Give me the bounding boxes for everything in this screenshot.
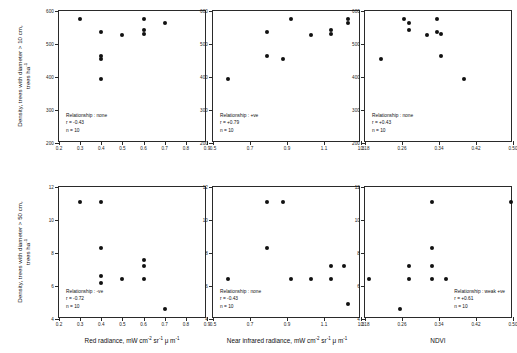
x-axis-tick-label: 0.6	[140, 322, 146, 327]
panel-top-right: 6005004003002000.180.260.340.420.50Relat…	[364, 10, 512, 142]
y-axis-tick-label: 8	[51, 251, 54, 256]
data-point	[439, 54, 443, 58]
data-point	[99, 77, 103, 81]
x-axis-tick-label: 0.18	[361, 146, 370, 151]
y-axis-tick	[209, 286, 213, 287]
x-axis-tick	[213, 317, 214, 321]
data-point	[142, 258, 146, 262]
x-axis-tick	[250, 317, 251, 321]
data-point	[289, 277, 293, 281]
annotation-sample-size: n = 10	[66, 303, 103, 310]
data-point	[99, 274, 103, 278]
y-axis-tick	[209, 253, 213, 254]
x-axis-tick	[144, 317, 145, 321]
data-point	[163, 307, 167, 311]
y-axis-tick	[361, 187, 365, 188]
x-axis-tick	[365, 317, 366, 321]
y-axis-label-bottom: Density, trees with diameter > 50 cm, tr…	[16, 186, 32, 318]
y-axis-tick-label: 4	[205, 317, 208, 322]
y-axis-tick	[361, 286, 365, 287]
x-axis-tick-label: 0.9	[284, 322, 290, 327]
y-axis-label-top-line2: trees ha-1	[24, 63, 31, 89]
annotation-correlation: r = +0.43	[372, 119, 413, 126]
data-point	[226, 277, 230, 281]
y-axis-tick-label: 4	[357, 317, 360, 322]
x-axis-tick-label: 0.50	[509, 322, 517, 327]
x-axis-tick	[476, 317, 477, 321]
y-axis-tick	[361, 11, 365, 12]
panel-bottom-middle: 12108640.50.70.91.11.3Relationship : non…	[212, 186, 360, 318]
x-axis-tick-label: 0.5	[119, 322, 125, 327]
data-point	[99, 200, 103, 204]
x-axis-tick-label: 0.42	[472, 322, 481, 327]
data-point	[289, 17, 293, 21]
panel-annotation: Relationship : +ver = +0.79n = 10	[220, 112, 258, 134]
y-axis-tick-label: 500	[46, 42, 54, 47]
y-axis-tick-label: 6	[357, 284, 360, 289]
y-axis-tick	[209, 44, 213, 45]
x-axis-tick-label: 0.8	[183, 146, 189, 151]
x-axis-tick-label: 0.34	[435, 146, 444, 151]
data-point	[462, 77, 466, 81]
y-axis-tick	[55, 110, 59, 111]
data-point	[329, 32, 333, 36]
y-axis-label-bottom-line2: trees ha-1	[24, 239, 31, 265]
y-axis-tick	[55, 77, 59, 78]
x-axis-tick	[287, 317, 288, 321]
x-axis-tick	[80, 317, 81, 321]
x-axis-tick-label: 0.34	[435, 322, 444, 327]
x-axis-label-nir-radiance: Near infrared radiance, mW cm-2 sr-1 μ m…	[192, 337, 382, 344]
x-axis-label-ndvi: NDVI	[364, 337, 512, 344]
y-axis-tick-label: 400	[46, 75, 54, 80]
chart-row-bottom: Density, trees with diameter > 50 cm, tr…	[0, 176, 502, 352]
x-axis-tick-label: 0.9	[284, 146, 290, 151]
x-axis-tick	[122, 141, 123, 145]
data-point	[265, 200, 269, 204]
y-axis-tick-label: 8	[205, 251, 208, 256]
y-axis-tick-label: 4	[51, 317, 54, 322]
x-axis-tick	[186, 317, 187, 321]
y-axis-tick	[55, 220, 59, 221]
data-point	[226, 77, 230, 81]
y-axis-tick-label: 12	[203, 185, 208, 190]
data-point	[120, 33, 124, 37]
x-axis-tick	[165, 141, 166, 145]
chart-row-top: Density, trees with diameter > 10 cm, tr…	[0, 0, 502, 176]
data-point	[281, 200, 285, 204]
y-axis-tick-label: 500	[352, 42, 360, 47]
x-axis-tick	[186, 141, 187, 145]
y-axis-tick-label: 12	[355, 185, 360, 190]
y-axis-tick	[361, 220, 365, 221]
data-point	[444, 277, 448, 281]
data-point	[430, 264, 434, 268]
x-axis-tick	[402, 141, 403, 145]
x-axis-tick-label: 0.18	[361, 322, 370, 327]
x-axis-tick	[165, 317, 166, 321]
y-axis-tick	[209, 187, 213, 188]
x-axis-tick	[324, 141, 325, 145]
data-point	[281, 57, 285, 61]
x-axis-tick-label: 1.1	[321, 146, 327, 151]
y-axis-tick-label: 600	[46, 9, 54, 14]
data-point	[430, 246, 434, 250]
annotation-correlation: r = -0.72	[66, 295, 103, 302]
y-axis-tick	[55, 286, 59, 287]
y-axis-tick-label: 600	[352, 9, 360, 14]
x-axis-tick	[402, 317, 403, 321]
x-axis-tick-label: 1.1	[321, 322, 327, 327]
x-axis-tick-label: 0.4	[98, 146, 104, 151]
y-axis-tick-label: 200	[352, 141, 360, 146]
x-axis-tick	[144, 141, 145, 145]
y-axis-tick	[209, 77, 213, 78]
x-axis-tick-label: 0.8	[183, 322, 189, 327]
data-point	[99, 30, 103, 34]
x-axis-tick-label: 0.5	[210, 322, 216, 327]
panel-annotation: Relationship : noner = +0.43n = 10	[372, 112, 413, 134]
y-axis-tick-label: 6	[205, 284, 208, 289]
y-axis-tick-label: 400	[200, 75, 208, 80]
data-point	[265, 54, 269, 58]
x-axis-tick-label: 0.26	[398, 322, 407, 327]
panel-annotation: Relationship : noner = -0.43n = 10	[220, 288, 261, 310]
data-point	[342, 264, 346, 268]
